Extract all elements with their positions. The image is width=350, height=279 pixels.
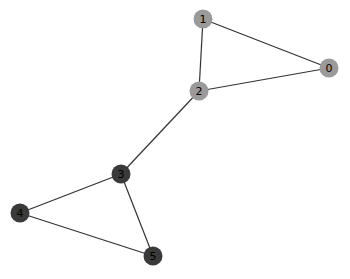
edge-1-2	[199, 19, 203, 91]
edge-2-3	[121, 91, 199, 174]
node-5: 5	[144, 247, 163, 266]
node-2: 2	[190, 82, 209, 101]
edge-0-1	[203, 19, 329, 68]
node-1: 1	[194, 10, 213, 29]
node-label: 5	[150, 250, 157, 263]
node-4: 4	[11, 204, 30, 223]
node-3: 3	[112, 165, 131, 184]
edge-3-4	[20, 174, 121, 213]
node-label: 3	[118, 168, 125, 181]
node-label: 2	[196, 85, 203, 98]
node-label: 1	[200, 13, 207, 26]
node-label: 0	[326, 62, 333, 75]
nodes-layer: 012345	[11, 10, 339, 266]
node-0: 0	[320, 59, 339, 78]
edge-0-2	[199, 68, 329, 91]
edge-4-5	[20, 213, 153, 256]
node-label: 4	[17, 207, 24, 220]
edges-layer	[20, 19, 329, 256]
edge-3-5	[121, 174, 153, 256]
graph-canvas: 012345	[0, 0, 350, 279]
